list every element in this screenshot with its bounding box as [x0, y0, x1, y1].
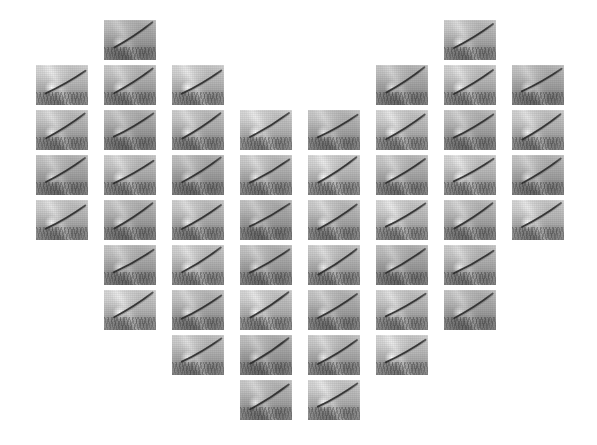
- thumbnail-image: [376, 290, 428, 330]
- thumbnail-tile: [36, 65, 88, 105]
- thumbnail-tile: [104, 245, 156, 285]
- thumbnail-tile: [308, 380, 360, 420]
- thumbnail-image: [376, 65, 428, 105]
- thumbnail-image: [240, 155, 292, 195]
- thumbnail-image: [36, 110, 88, 150]
- thumbnail-tile: [172, 245, 224, 285]
- thumbnail-tile: [376, 245, 428, 285]
- thumbnail-tile: [308, 110, 360, 150]
- thumbnail-image: [36, 155, 88, 195]
- thumbnail-image: [240, 335, 292, 375]
- thumbnail-tile: [444, 290, 496, 330]
- thumbnail-image: [240, 200, 292, 240]
- thumbnail-tile: [308, 200, 360, 240]
- thumbnail-image: [444, 110, 496, 150]
- thumbnail-tile: [444, 245, 496, 285]
- thumbnail-tile: [240, 380, 292, 420]
- thumbnail-image: [172, 65, 224, 105]
- thumbnail-tile: [36, 110, 88, 150]
- thumbnail-tile: [104, 200, 156, 240]
- thumbnail-image: [240, 380, 292, 420]
- thumbnail-image: [308, 155, 360, 195]
- thumbnail-tile: [376, 110, 428, 150]
- thumbnail-image: [376, 335, 428, 375]
- thumbnail-image: [512, 65, 564, 105]
- thumbnail-tile: [376, 290, 428, 330]
- thumbnail-tile: [172, 65, 224, 105]
- thumbnail-image: [444, 200, 496, 240]
- thumbnail-image: [376, 110, 428, 150]
- mosaic-canvas: [0, 0, 597, 445]
- thumbnail-tile: [104, 290, 156, 330]
- thumbnail-image: [240, 245, 292, 285]
- thumbnail-image: [308, 110, 360, 150]
- thumbnail-image: [104, 20, 156, 60]
- thumbnail-tile: [512, 65, 564, 105]
- thumbnail-image: [376, 200, 428, 240]
- thumbnail-tile: [240, 245, 292, 285]
- thumbnail-tile: [36, 155, 88, 195]
- thumbnail-image: [172, 245, 224, 285]
- thumbnail-tile: [104, 110, 156, 150]
- thumbnail-tile: [512, 200, 564, 240]
- thumbnail-tile: [444, 200, 496, 240]
- thumbnail-tile: [376, 65, 428, 105]
- thumbnail-image: [104, 290, 156, 330]
- thumbnail-image: [104, 110, 156, 150]
- thumbnail-tile: [308, 245, 360, 285]
- thumbnail-tile: [240, 110, 292, 150]
- thumbnail-tile: [36, 200, 88, 240]
- thumbnail-tile: [104, 155, 156, 195]
- thumbnail-tile: [376, 200, 428, 240]
- thumbnail-image: [444, 155, 496, 195]
- thumbnail-image: [376, 155, 428, 195]
- thumbnail-image: [444, 245, 496, 285]
- thumbnail-image: [308, 200, 360, 240]
- thumbnail-tile: [444, 110, 496, 150]
- thumbnail-tile: [444, 155, 496, 195]
- thumbnail-tile: [104, 20, 156, 60]
- thumbnail-tile: [444, 20, 496, 60]
- thumbnail-tile: [512, 110, 564, 150]
- thumbnail-image: [104, 245, 156, 285]
- thumbnail-image: [308, 335, 360, 375]
- thumbnail-tile: [240, 290, 292, 330]
- thumbnail-image: [172, 335, 224, 375]
- thumbnail-tile: [444, 65, 496, 105]
- thumbnail-tile: [240, 200, 292, 240]
- thumbnail-image: [240, 110, 292, 150]
- thumbnail-tile: [308, 290, 360, 330]
- thumbnail-image: [172, 110, 224, 150]
- thumbnail-tile: [172, 290, 224, 330]
- thumbnail-tile: [172, 110, 224, 150]
- thumbnail-image: [172, 290, 224, 330]
- thumbnail-image: [512, 200, 564, 240]
- thumbnail-image: [512, 155, 564, 195]
- thumbnail-tile: [172, 335, 224, 375]
- thumbnail-tile: [240, 155, 292, 195]
- thumbnail-tile: [512, 155, 564, 195]
- thumbnail-tile: [172, 155, 224, 195]
- thumbnail-image: [308, 290, 360, 330]
- thumbnail-image: [172, 155, 224, 195]
- thumbnail-image: [104, 155, 156, 195]
- thumbnail-image: [308, 245, 360, 285]
- thumbnail-image: [444, 20, 496, 60]
- thumbnail-image: [376, 245, 428, 285]
- thumbnail-tile: [104, 65, 156, 105]
- thumbnail-tile: [172, 200, 224, 240]
- thumbnail-tile: [376, 155, 428, 195]
- thumbnail-image: [512, 110, 564, 150]
- thumbnail-tile: [308, 335, 360, 375]
- thumbnail-image: [444, 65, 496, 105]
- thumbnail-image: [36, 200, 88, 240]
- thumbnail-image: [36, 65, 88, 105]
- thumbnail-image: [104, 200, 156, 240]
- thumbnail-image: [444, 290, 496, 330]
- thumbnail-image: [172, 200, 224, 240]
- thumbnail-image: [240, 290, 292, 330]
- thumbnail-tile: [308, 155, 360, 195]
- thumbnail-tile: [240, 335, 292, 375]
- thumbnail-image: [104, 65, 156, 105]
- thumbnail-tile: [376, 335, 428, 375]
